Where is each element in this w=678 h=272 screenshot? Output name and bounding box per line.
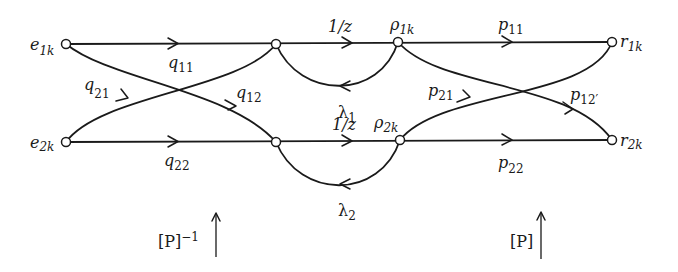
label-p11: p11	[498, 15, 524, 37]
arrow-q21	[116, 89, 128, 101]
node-rho1k	[394, 38, 403, 47]
bottom-branch-line	[66, 140, 612, 142]
node-r1k	[608, 38, 617, 47]
node-e1k	[62, 40, 71, 49]
label-rho1k: ρ1k	[389, 15, 414, 37]
label-p22: p22	[498, 153, 524, 176]
label-lambda1: λ1	[338, 103, 356, 125]
label-q12: q12	[236, 83, 262, 105]
edge-lambda1-loop	[276, 42, 398, 86]
label-r2k: r2k	[620, 131, 643, 152]
label-delay1: 1/z	[328, 17, 353, 36]
label-q11: q11	[168, 53, 194, 75]
node-mid-bottom	[272, 138, 281, 147]
label-q22: q22	[164, 151, 190, 173]
node-mid-top	[272, 40, 281, 49]
label-p21: p21	[428, 81, 454, 103]
edge-lambda2-loop	[276, 140, 400, 185]
label-r1k: r1k	[620, 32, 643, 54]
label-e2k: e2k	[30, 133, 54, 154]
label-inverse-p: [P]−1	[158, 230, 199, 251]
node-r2k	[608, 136, 617, 145]
label-lambda2: λ2	[338, 201, 356, 223]
node-e2k	[62, 138, 71, 147]
label-rho2k: ρ2k	[373, 113, 398, 135]
node-rho2k	[396, 136, 405, 145]
label-p12: p12′	[570, 85, 599, 107]
label-p: [P]	[510, 232, 533, 251]
label-e1k: e1k	[30, 35, 54, 58]
signal-flow-diagram: e1k e2k ρ1k ρ2k r1k r2k q11 q21 q12 q22 …	[0, 0, 678, 272]
top-branch-line	[66, 42, 612, 44]
label-q21: q21	[84, 75, 110, 101]
arrow-p21	[457, 90, 470, 102]
